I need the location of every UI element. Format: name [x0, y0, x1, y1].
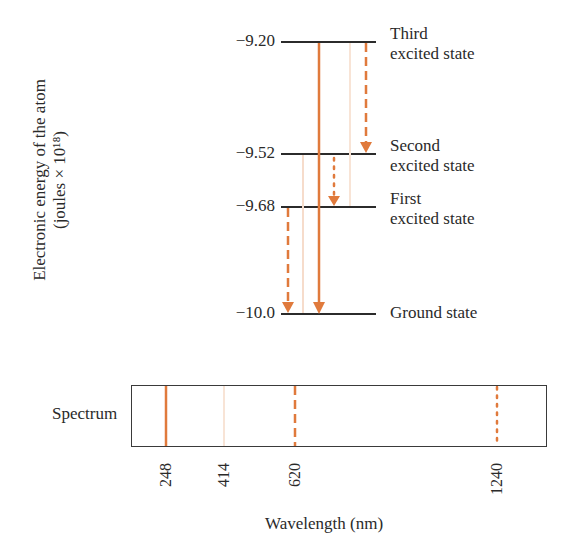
arrowhead-icon — [328, 196, 340, 206]
arrowhead-icon — [313, 302, 325, 314]
spectrum-box — [131, 385, 547, 447]
wavelength-label-248: 248 — [157, 450, 175, 500]
wavelength-label-414: 414 — [215, 450, 233, 500]
arrowhead-icon — [360, 142, 372, 153]
spectrum-label: Spectrum — [52, 404, 117, 424]
wavelength-label-1240: 1240 — [488, 454, 506, 504]
arrowhead-icon — [282, 302, 294, 313]
wavelength-label-620: 620 — [286, 450, 304, 500]
x-axis-label: Wavelength (nm) — [265, 514, 383, 534]
